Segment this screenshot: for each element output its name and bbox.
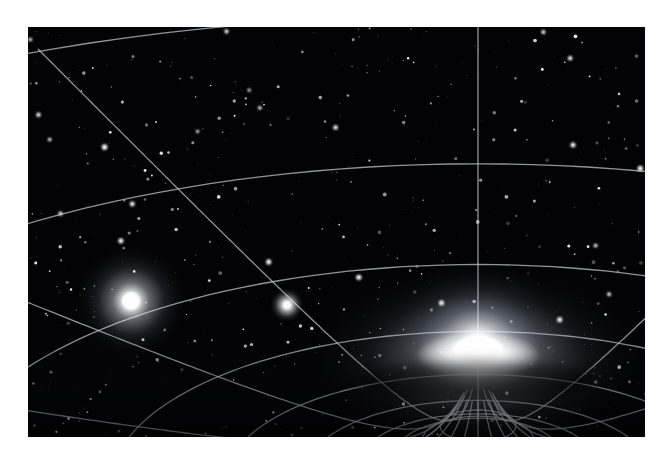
spacetime-scene (28, 27, 645, 437)
image-frame: Illustration of curved spacetime: a glow… (0, 0, 668, 458)
spacetime-grid-svg (28, 27, 645, 437)
